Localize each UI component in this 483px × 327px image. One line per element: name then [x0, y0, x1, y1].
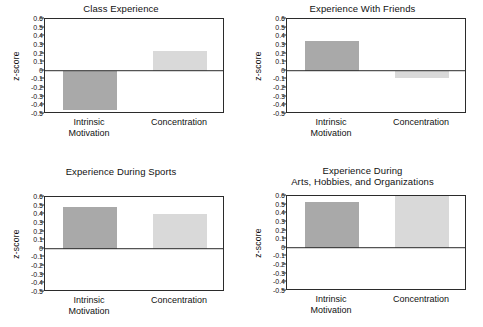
zero-line: [287, 70, 465, 72]
x-axis-category-label: Intrinsic Motivation: [44, 295, 134, 316]
zero-line: [45, 70, 223, 72]
panel-title: Experience During Arts, Hobbies, and Org…: [242, 165, 483, 187]
bar-intrinsic-motivation: [63, 71, 117, 110]
plot-frame: [286, 195, 466, 290]
bar-intrinsic-motivation: [305, 202, 359, 248]
panel-experience-during-arts-hobbies-organizations: Experience During Arts, Hobbies, and Org…: [242, 163, 483, 327]
x-axis-category-label: Concentration: [134, 117, 224, 138]
bar-concentration: [395, 195, 449, 248]
x-axis-category-label: Intrinsic Motivation: [286, 294, 376, 315]
y-axis-title: z-score: [253, 36, 263, 96]
plot-frame: [286, 18, 466, 113]
x-axis-category-labels: Intrinsic MotivationConcentration: [44, 117, 224, 138]
bar-intrinsic-motivation: [305, 41, 359, 70]
y-axis-title: z-score: [11, 36, 21, 96]
y-axis-title: z-score: [11, 214, 21, 274]
x-axis-category-labels: Intrinsic MotivationConcentration: [286, 294, 466, 315]
zero-line: [45, 248, 223, 250]
plot-area: z-score0.60.50.40.30.20.10-0.1-0.2-0.3-0…: [286, 18, 466, 113]
bar-concentration: [153, 214, 207, 249]
figure-panel-grid: Class Experience z-score0.60.50.40.30.20…: [0, 0, 483, 327]
x-axis-category-labels: Intrinsic MotivationConcentration: [44, 295, 224, 316]
x-axis-category-label: Concentration: [376, 294, 466, 315]
bar-concentration: [395, 71, 449, 78]
panel-class-experience: Class Experience z-score0.60.50.40.30.20…: [0, 0, 242, 163]
panel-experience-with-friends: Experience With Friends z-score0.60.50.4…: [242, 0, 483, 163]
plot-area: z-score0.60.50.40.30.20.10-0.1-0.2-0.3-0…: [44, 18, 224, 113]
x-axis-category-label: Concentration: [376, 117, 466, 138]
y-axis-title: z-score: [253, 213, 263, 273]
x-axis-category-labels: Intrinsic MotivationConcentration: [286, 117, 466, 138]
x-axis-category-label: Concentration: [134, 295, 224, 316]
plot-area: z-score0.60.50.40.30.20.10-0.1-0.2-0.3-0…: [286, 195, 466, 290]
panel-experience-during-sports: Experience During Sports z-score0.60.50.…: [0, 163, 242, 327]
bar-intrinsic-motivation: [63, 207, 117, 249]
panel-title: Experience During Sports: [0, 166, 242, 177]
plot-frame: [44, 196, 224, 291]
x-axis-category-label: Intrinsic Motivation: [44, 117, 134, 138]
panel-title: Class Experience: [0, 3, 242, 14]
plot-frame: [44, 18, 224, 113]
x-axis-category-label: Intrinsic Motivation: [286, 117, 376, 138]
bar-concentration: [153, 51, 207, 71]
plot-area: z-score0.60.50.40.30.20.10-0.1-0.2-0.3-0…: [44, 196, 224, 291]
zero-line: [287, 247, 465, 249]
panel-title: Experience With Friends: [242, 3, 483, 14]
